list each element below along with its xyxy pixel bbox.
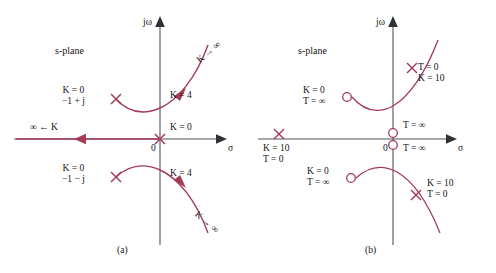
pole-marker-lower-a	[111, 172, 121, 182]
axis-imag-label-b: jω	[376, 17, 385, 28]
gain-label-lower-a: K = 4	[170, 168, 192, 179]
plane-label-a: s-plane	[55, 46, 84, 57]
pole-label-upper-a: K = 0 −1 + j	[62, 85, 85, 106]
zero-label-lower-b: K = 0 T = ∞	[307, 166, 330, 187]
pole-label-lower-b: K = 10 T = 0	[427, 178, 453, 199]
zero-label-upper-b-line1: K = 0	[303, 85, 326, 96]
pole-label-lower-b-line2: T = 0	[427, 189, 453, 200]
zero-marker-origin-lower-b	[389, 141, 398, 150]
zero-label-upper-b-line2: T = ∞	[303, 96, 326, 107]
pole-label-lower-b-line1: K = 10	[427, 178, 453, 189]
zero-marker-lower-b	[347, 174, 356, 183]
pole-label-lower-a: K = 0 −1 − j	[62, 163, 85, 184]
gain-label-upper-a: K = 4	[170, 90, 192, 101]
caption-b: (b)	[365, 245, 376, 255]
pole-label-upper-b: T = 0 K = 10	[418, 62, 444, 83]
plane-label-b: s-plane	[298, 46, 327, 57]
origin-gain-label-a: K = 0	[170, 122, 192, 133]
pole-label-left-b-line1: K = 10	[263, 143, 289, 154]
pole-marker-upper-a	[111, 94, 121, 104]
pole-label-lower-a-line2: −1 − j	[62, 174, 85, 185]
panel-a: s-plane jω σ 0 K = 0 −1 + j K = 0 −1 − j…	[0, 0, 248, 273]
pole-label-upper-b-line2: K = 10	[418, 73, 444, 84]
root-figure: s-plane jω σ 0 K = 0 −1 + j K = 0 −1 − j…	[0, 0, 496, 273]
real-branch-label-a: ∞ ← K	[30, 122, 58, 133]
pole-marker-lower-b	[411, 190, 421, 200]
locus-real-axis-a	[16, 134, 160, 144]
origin-zero-label-lower-b: T = ∞	[403, 143, 426, 154]
zero-marker-origin-upper-b	[389, 129, 398, 138]
pole-label-left-b-line2: T = 0	[263, 154, 289, 165]
pole-label-upper-b-line1: T = 0	[418, 62, 444, 73]
pole-label-lower-a-line1: K = 0	[62, 163, 85, 174]
origin-label-b: 0	[383, 143, 388, 154]
panel-b: s-plane jω σ 0 K = 0 T = ∞ K = 0 T = ∞ T…	[248, 0, 496, 273]
axis-real-label-b: σ	[458, 143, 463, 154]
zero-label-lower-b-line2: T = ∞	[307, 177, 330, 188]
axis-imag-a	[155, 16, 165, 245]
axis-imag-label-a: jω	[143, 17, 152, 28]
pole-marker-left-b	[274, 129, 284, 139]
zero-label-lower-b-line1: K = 0	[307, 166, 330, 177]
pole-label-upper-a-line2: −1 + j	[62, 96, 85, 107]
origin-zero-label-upper-b: T = ∞	[403, 120, 426, 131]
panel-b-canvas	[248, 0, 496, 273]
pole-label-upper-a-line1: K = 0	[62, 85, 85, 96]
pole-marker-upper-b	[407, 63, 417, 73]
locus-lower-a	[116, 166, 208, 233]
zero-marker-upper-b	[343, 93, 352, 102]
pole-label-left-b: K = 10 T = 0	[263, 143, 289, 164]
locus-upper-a	[116, 45, 208, 112]
caption-a: (a)	[117, 245, 128, 255]
axis-real-label-a: σ	[228, 143, 233, 154]
zero-label-upper-b: K = 0 T = ∞	[303, 85, 326, 106]
origin-label-a: 0	[151, 143, 156, 154]
